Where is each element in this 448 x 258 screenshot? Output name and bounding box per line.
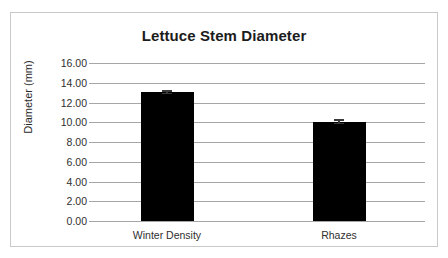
gridline [89,142,425,143]
error-bar-cap [334,119,344,121]
gridline [89,201,425,202]
y-tick-label: 0.00 [27,215,87,227]
x-tick-label: Rhazes [279,229,399,241]
y-tick-label: 4.00 [27,176,87,188]
gridline [89,83,425,84]
plot-area [89,63,425,221]
gridline [89,162,425,163]
error-bar-cap [162,90,172,92]
y-tick-label: 6.00 [27,156,87,168]
y-tick-label: 14.00 [27,77,87,89]
gridline [89,221,425,222]
y-tick-label: 12.00 [27,97,87,109]
y-tick-label: 16.00 [27,57,87,69]
chart-title: Lettuce Stem Diameter [11,27,437,44]
gridline [89,103,425,104]
gridline [89,182,425,183]
bar [141,92,194,221]
error-bar-cap [162,93,172,95]
y-tick-label: 8.00 [27,136,87,148]
error-bar [166,90,168,94]
gridline [89,122,425,123]
error-bar [338,119,340,124]
x-axis-tick-labels: Winter DensityRhazes [89,229,425,251]
y-axis-tick-labels: 16.0014.0012.0010.008.006.004.002.000.00 [25,63,87,221]
y-tick-label: 2.00 [27,195,87,207]
bar [313,122,366,221]
chart-frame: Lettuce Stem Diameter Diameter (mm) 16.0… [10,12,438,247]
x-tick-label: Winter Density [107,229,227,241]
y-tick-label: 10.00 [27,116,87,128]
error-bar-cap [334,123,344,125]
gridline [89,63,425,64]
